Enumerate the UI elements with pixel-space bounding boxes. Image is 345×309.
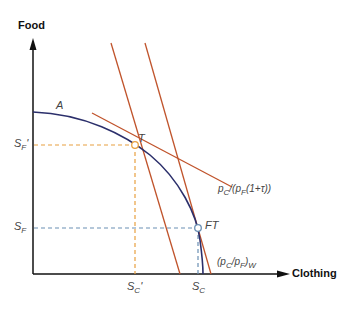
trade-diagram: [0, 0, 345, 309]
curve-label: A: [56, 99, 63, 111]
ppf-curve: [33, 112, 203, 274]
tick-sub: C: [199, 286, 205, 295]
free-trade-point-label: FT: [205, 219, 218, 231]
tariff-price-line: [92, 113, 232, 187]
sf-tick: SF: [14, 220, 26, 235]
domestic-price-line: [111, 43, 180, 274]
tick-suffix: ': [140, 280, 142, 292]
tick-sub: F: [21, 226, 26, 235]
tick-suffix: ': [26, 137, 28, 149]
x-axis-arrow-icon: [277, 271, 290, 278]
sc-prime-tick: SC': [127, 280, 142, 295]
tariff-point-label: T: [138, 132, 145, 144]
world-price-label: (pC/pF)W: [217, 256, 256, 270]
sc-tick: SC: [192, 280, 205, 295]
y-axis-label: Food: [18, 19, 45, 31]
x-axis-label: Clothing: [292, 267, 337, 279]
sf-prime-tick: SF': [14, 137, 28, 152]
label-part: /(p: [229, 183, 241, 194]
label-sub: W: [248, 261, 256, 270]
label-part: (1+τ)): [246, 183, 271, 194]
label-part: (p: [217, 256, 226, 267]
y-axis-arrow-icon: [30, 38, 37, 50]
label-part: /p: [232, 256, 240, 267]
free-trade-point-marker: [195, 225, 202, 232]
tariff-price-label: pC/(pF(1+τ)): [218, 183, 271, 197]
